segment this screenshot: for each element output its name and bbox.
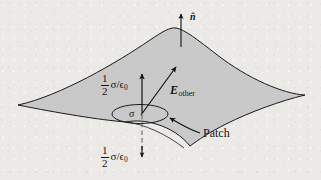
- physics-diagram-figure: n̂ 1 2 σ/ϵ0 1 2 σ/ϵ0 Eother σ Patch: [0, 0, 321, 180]
- upper-one-half-fraction: 1 2: [101, 73, 109, 97]
- lower-epsilon-subscript: 0: [124, 155, 128, 164]
- normal-vector-label: n̂: [190, 12, 196, 22]
- e-other-label: Eother: [170, 84, 195, 98]
- patch-label: Patch: [203, 127, 230, 139]
- upper-half-sigma-over-epsilon-label: 1 2 σ/ϵ0: [101, 73, 128, 97]
- lower-sigma-epsilon-main: σ/ϵ: [111, 150, 124, 162]
- charged-surface-sheet: [18, 28, 305, 148]
- lower-fraction-denominator: 2: [101, 158, 109, 170]
- lower-one-half-fraction: 1 2: [101, 145, 109, 169]
- surface-charge-density-label: σ: [129, 109, 134, 119]
- e-other-symbol: E: [170, 83, 178, 97]
- e-other-subscript: other: [179, 89, 195, 98]
- upper-fraction-numerator: 1: [101, 73, 109, 85]
- upper-epsilon-subscript: 0: [124, 83, 128, 92]
- diagram-canvas: [0, 0, 321, 180]
- lower-fraction-numerator: 1: [101, 145, 109, 157]
- upper-sigma-epsilon-main: σ/ϵ: [111, 78, 124, 90]
- upper-fraction-denominator: 2: [101, 86, 109, 98]
- upper-sigma-epsilon-expression: σ/ϵ0: [111, 79, 128, 92]
- lower-sigma-epsilon-expression: σ/ϵ0: [111, 151, 128, 164]
- lower-half-sigma-over-epsilon-label: 1 2 σ/ϵ0: [101, 145, 128, 169]
